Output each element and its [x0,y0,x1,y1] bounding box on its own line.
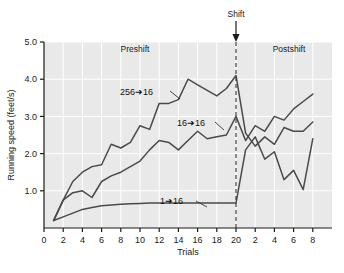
postshift-region-label: Postshift [273,44,306,54]
shift-label: Shift [227,9,245,19]
series-label-16-16: 16➜16 [177,118,205,128]
y-tick-label: 2.0 [24,149,37,159]
x-tick-label: 2 [61,235,66,245]
x-tick-label: 16 [193,235,203,245]
x-tick-label: 6 [291,235,296,245]
x-tick-label: 4 [80,235,85,245]
x-tick-label: 4 [272,235,277,245]
x-tick-label: 8 [310,235,315,245]
running-speed-chart: 1.02.03.04.05.0 024681012141618202468 Ru… [0,0,344,273]
y-tick-label: 4.0 [24,74,37,84]
x-tick-label: 2 [253,235,258,245]
y-tick-label: 5.0 [24,37,37,47]
x-tick-label: 20 [231,235,241,245]
preshift-region-label: Preshift [121,44,150,54]
chart-svg: 1.02.03.04.05.0 024681012141618202468 Ru… [0,0,344,273]
x-tick-label: 0 [41,235,46,245]
series-label-256-16: 256➜16 [120,87,153,97]
y-tick-label: 3.0 [24,112,37,122]
x-axis-ticks: 024681012141618202468 [41,228,315,245]
x-tick-label: 6 [99,235,104,245]
x-tick-label: 8 [118,235,123,245]
y-tick-label: 1.0 [24,186,37,196]
y-axis-label: Running speed (feet/s) [6,89,16,180]
plot-area-background [44,42,332,228]
series-label-1-16: 1➜16 [160,196,183,206]
x-tick-label: 10 [135,235,145,245]
x-axis-label: Trials [177,247,199,257]
x-tick-label: 12 [154,235,164,245]
x-tick-label: 18 [212,235,222,245]
x-tick-label: 14 [173,235,183,245]
